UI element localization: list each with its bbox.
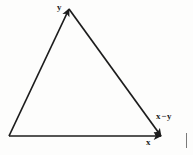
vector-label-x: x (146, 138, 151, 147)
vector-label-x-minus-y-operand-right: y (167, 111, 172, 121)
vector-y-line (9, 9, 69, 136)
vector-label-x-minus-y: x−y (156, 112, 172, 121)
scan-edge-artifact (186, 133, 187, 148)
vector-label-y: y (57, 3, 62, 12)
vector-label-x-text: x (146, 137, 151, 147)
vector-x-minus-y-line (69, 9, 161, 136)
vector-label-y-text: y (57, 2, 62, 12)
vector-diagram-canvas (0, 0, 193, 155)
vector-diagram-figure: y x−y x (0, 0, 193, 155)
vector-label-x-minus-y-operand-left: x (156, 111, 161, 121)
